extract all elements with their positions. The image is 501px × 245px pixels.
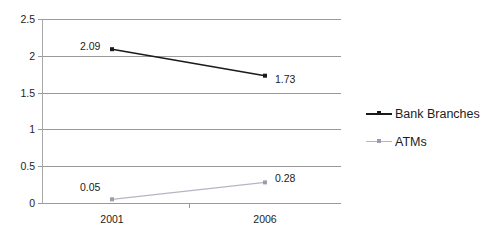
series-atms [110,180,267,201]
legend-label-bank-branches: Bank Branches [395,108,480,121]
series-bank-branches [110,47,267,77]
legend-label-atms: ATMs [395,136,427,149]
legend-item-bank-branches[interactable]: Bank Branches [366,100,498,128]
legend-item-atms[interactable]: ATMs [366,128,498,156]
series-bank-branches-line [112,49,265,75]
series-atms-line [112,182,265,199]
legend: Bank Branches ATMs [366,100,498,156]
data-label-bank-branches-2006: 1.73 [275,74,295,85]
legend-swatch-atms-icon [366,136,392,148]
line-chart: 2.5 2 1.5 1 0.5 0 2001 2006 2.09 1.73 0.… [0,0,501,245]
legend-swatch-bank-branches-icon [366,108,392,120]
series-atms-marker-2006 [263,180,267,184]
data-label-atms-2001: 0.05 [80,182,100,193]
series-bank-branches-marker-2001 [110,47,114,51]
data-label-bank-branches-2001: 2.09 [80,41,100,52]
series-atms-marker-2001 [110,197,114,201]
series-bank-branches-marker-2006 [263,74,267,78]
data-label-atms-2006: 0.28 [275,173,295,184]
